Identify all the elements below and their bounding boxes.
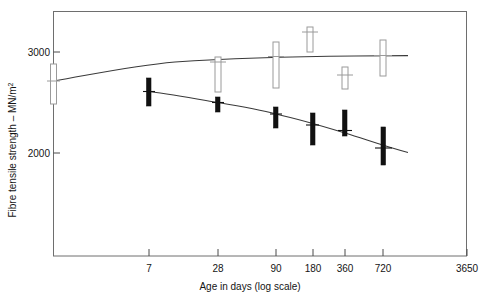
marker-open-age-start xyxy=(47,64,60,104)
marker-solid-age-180 xyxy=(306,113,319,145)
x-axis-title: Age in days (log scale) xyxy=(199,281,300,292)
lower-trend-curve xyxy=(149,92,408,153)
marker-solid-age-360 xyxy=(338,110,352,136)
x-tick-label-720: 720 xyxy=(375,263,392,274)
x-tick-label-360: 360 xyxy=(337,263,354,274)
marker-open-age-360 xyxy=(337,67,353,89)
chart-figure: 3000 2000 7 28 90 180 360 720 3650 Age i… xyxy=(0,0,494,296)
x-tick-label-28: 28 xyxy=(212,263,224,274)
marker-solid-age-90 xyxy=(270,107,282,128)
x-tick-label-90: 90 xyxy=(270,263,282,274)
marker-open-age-90 xyxy=(268,42,284,88)
upper-trend-curve xyxy=(54,56,409,81)
x-tick-label-180: 180 xyxy=(305,263,322,274)
marker-open-age-720 xyxy=(374,40,392,76)
marker-open-age-180 xyxy=(302,27,318,52)
x-tick-label-3650: 3650 xyxy=(456,263,479,274)
y-tick-label-2000: 2000 xyxy=(28,148,51,159)
marker-solid-age-7 xyxy=(143,78,155,106)
plot-frame xyxy=(54,12,467,257)
marker-solid-age-720 xyxy=(375,127,392,165)
y-axis-title: Fibre tensile strength – MN/m2 xyxy=(7,82,19,217)
x-tick-label-7: 7 xyxy=(146,263,152,274)
marker-solid-age-28 xyxy=(212,97,224,112)
y-tick-label-3000: 3000 xyxy=(28,47,51,58)
y-axis-title-exponent: 2 xyxy=(7,82,14,86)
fibre-tensile-strength-chart: 3000 2000 7 28 90 180 360 720 3650 Age i… xyxy=(0,0,494,296)
x-axis-ticks xyxy=(149,249,467,256)
y-axis-title-main: Fibre tensile strength – MN/m xyxy=(7,86,18,217)
marker-open-age-28 xyxy=(210,57,226,92)
